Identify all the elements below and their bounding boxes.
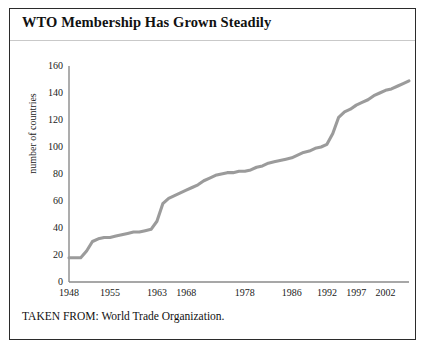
y-tick-label: 160 <box>33 61 63 71</box>
y-tick-label: 120 <box>33 115 63 125</box>
x-tick-label: 1955 <box>90 288 130 298</box>
y-tick-label: 40 <box>33 223 63 233</box>
chart-data-series <box>69 81 409 258</box>
x-tick-label: 1948 <box>49 288 89 298</box>
y-tick-label: 100 <box>33 142 63 152</box>
data-line-number-of-countries <box>69 81 409 258</box>
x-tick-label: 2002 <box>366 288 406 298</box>
page-title: WTO Membership Has Grown Steadily <box>22 14 271 31</box>
line-chart-svg <box>10 42 417 300</box>
title-bar: WTO Membership Has Grown Steadily <box>10 9 415 41</box>
y-tick-label: 0 <box>33 277 63 287</box>
x-tick-label: 1968 <box>166 288 206 298</box>
x-tick-label: 1986 <box>272 288 312 298</box>
figure-frame: WTO Membership Has Grown Steadily number… <box>9 8 416 340</box>
chart-plot-region: number of countries 02040608010012014016… <box>10 42 415 300</box>
y-tick-label: 20 <box>33 250 63 260</box>
y-tick-label: 80 <box>33 169 63 179</box>
source-note: TAKEN FROM: World Trade Organization. <box>22 310 225 322</box>
y-tick-label: 140 <box>33 88 63 98</box>
y-tick-label: 60 <box>33 196 63 206</box>
x-tick-label: 1978 <box>225 288 265 298</box>
chart-axes <box>69 66 409 282</box>
